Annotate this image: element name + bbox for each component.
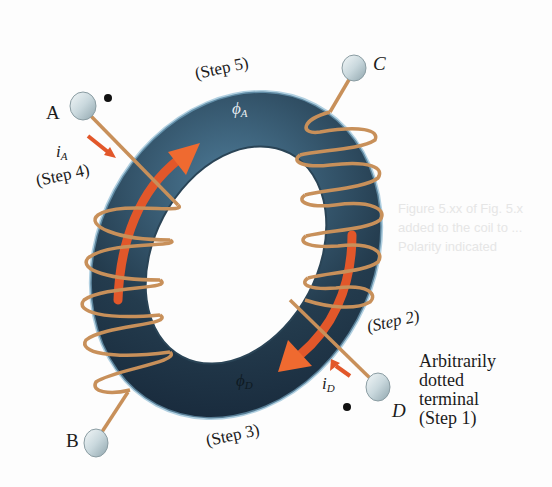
terminal-label-d: D — [392, 402, 406, 420]
polarity-dot-a — [104, 94, 112, 102]
note-line-3: terminal — [419, 390, 496, 409]
flux-label-phi-d: ϕD — [236, 372, 253, 394]
current-label-id: iD — [322, 375, 335, 397]
flux-label-phi-a: ϕA — [232, 100, 248, 122]
polarity-dot-d — [343, 403, 351, 411]
terminal-a[interactable] — [70, 92, 96, 120]
note-line-1: Arbitrarily — [419, 352, 496, 371]
terminal-label-a: A — [46, 104, 60, 122]
note-line-4: (Step 1) — [419, 409, 496, 428]
current-label-ia: iA — [56, 143, 67, 165]
terminal-c[interactable] — [342, 55, 366, 81]
terminal-label-c: C — [373, 55, 386, 73]
terminal-label-b: B — [66, 432, 79, 450]
terminal-d[interactable] — [366, 373, 390, 401]
note-line-2: dotted — [419, 371, 496, 390]
terminal-b[interactable] — [84, 429, 108, 457]
dotted-terminal-note: Arbitrarily dotted terminal (Step 1) — [419, 352, 496, 428]
